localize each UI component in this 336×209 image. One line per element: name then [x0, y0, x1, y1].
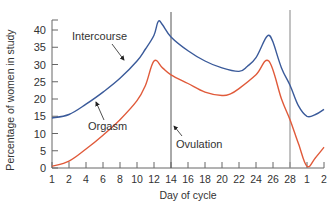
- x-tick-label: 18: [199, 173, 211, 185]
- intercourse-label: Intercourse: [72, 30, 127, 42]
- y-tick-label: 40: [34, 24, 46, 36]
- orgasm-label: Orgasm: [88, 120, 127, 132]
- y-tick-label: 10: [34, 128, 46, 140]
- y-tick-label: 35: [34, 41, 46, 53]
- x-tick-label: 2: [66, 173, 72, 185]
- y-axis-label: Percentage of women in study: [4, 29, 16, 171]
- menstrual-cycle-chart: 0510152025303540124681012141618202224262…: [0, 0, 336, 209]
- x-tick-label: 1: [304, 173, 310, 185]
- y-tick-label: 5: [40, 145, 46, 157]
- x-tick-label: 26: [267, 173, 279, 185]
- y-tick-label: 20: [34, 93, 46, 105]
- x-tick-label: 2: [321, 173, 327, 185]
- x-tick-label: 22: [233, 173, 245, 185]
- ovulation-arrow: [174, 126, 182, 136]
- x-tick-label: 6: [100, 173, 106, 185]
- x-tick-label: 16: [182, 173, 194, 185]
- ovulation-label: Ovulation: [176, 138, 222, 150]
- y-tick-label: 25: [34, 76, 46, 88]
- orgasm-line: [52, 60, 324, 167]
- orgasm-arrow: [96, 102, 104, 120]
- x-tick-label: 8: [117, 173, 123, 185]
- chart-svg: 0510152025303540124681012141618202224262…: [0, 0, 336, 209]
- x-tick-label: 24: [250, 173, 262, 185]
- x-tick-label: 20: [216, 173, 228, 185]
- x-tick-label: 4: [83, 173, 89, 185]
- intercourse-arrow: [112, 44, 124, 60]
- y-tick-label: 30: [34, 59, 46, 71]
- x-tick-label: 1: [49, 173, 55, 185]
- x-tick-label: 14: [165, 173, 177, 185]
- x-tick-label: 10: [131, 173, 143, 185]
- y-tick-label: 15: [34, 110, 46, 122]
- x-tick-label: 28: [284, 173, 296, 185]
- x-axis-label: Day of cycle: [159, 189, 216, 201]
- y-tick-label: 0: [40, 162, 46, 174]
- x-tick-label: 12: [148, 173, 160, 185]
